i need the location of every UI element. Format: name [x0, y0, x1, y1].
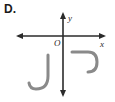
graph-option-figure: D. y x O [0, 0, 115, 102]
curve-right-reversed-c-branch [72, 52, 97, 72]
y-axis [60, 12, 66, 97]
x-axis-label: x [99, 39, 104, 49]
x-axis [16, 33, 106, 39]
origin-label: O [54, 38, 61, 48]
coordinate-plane-svg: y x O [0, 0, 115, 102]
y-axis-up-arrowhead [60, 12, 66, 19]
y-axis-label: y [67, 13, 72, 23]
y-axis-down-arrowhead [60, 90, 66, 97]
curve-left-j-branch [29, 55, 48, 89]
x-axis-left-arrowhead [16, 33, 23, 39]
